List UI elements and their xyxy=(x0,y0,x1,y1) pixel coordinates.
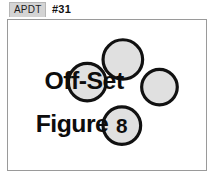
figure-panel[interactable]: Off-Set Figure 8 xyxy=(7,19,207,171)
figure-canvas: Off-Set Figure 8 xyxy=(8,20,206,170)
tab-apdt[interactable]: APDT xyxy=(9,2,46,17)
figure-bubble-number: 8 xyxy=(116,115,128,138)
document-number-label: #31 xyxy=(52,3,71,15)
figure-drawing: Off-Set Figure 8 xyxy=(8,20,206,170)
figure-caption-line-2: Figure xyxy=(36,111,109,138)
figure-caption-line-1: Off-Set xyxy=(45,67,124,94)
figure-circle-right xyxy=(142,69,178,105)
header-bar: APDT #31 xyxy=(0,0,215,20)
